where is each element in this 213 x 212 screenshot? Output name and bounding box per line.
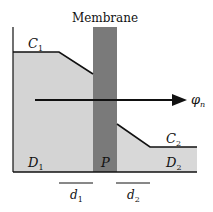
membrane-title: Membrane	[72, 11, 138, 25]
left-region-fill	[13, 52, 93, 172]
c2-label: C2	[166, 131, 181, 148]
d1-thickness-label: d1	[70, 188, 83, 204]
membrane-diagram: Membrane C1 C2 D1 P D2 φn d1 d2	[0, 0, 213, 212]
d2-thickness-label: d2	[127, 188, 140, 204]
membrane-region-label: P	[100, 155, 110, 170]
right-region-fill	[117, 124, 197, 172]
c1-label: C1	[28, 36, 43, 53]
flux-label: φn	[191, 92, 205, 109]
flux-arrow-head	[172, 94, 187, 106]
